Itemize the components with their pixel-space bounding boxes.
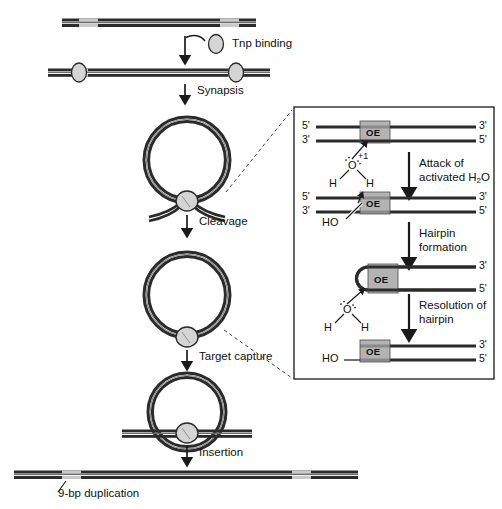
prime-label-p3-right-bottom: 5': [479, 282, 487, 295]
dna-top-linear: [62, 19, 256, 28]
tnp-oval-cleaved: [176, 327, 198, 347]
tnp-oval-right: [229, 63, 244, 82]
water-hydrogen-right-p3: H: [361, 321, 369, 334]
water-oxygen-p3: O: [343, 303, 352, 316]
tnp-oval-synapse: [176, 191, 198, 211]
inset-arrow-label-resolution-line2: hairpin: [419, 313, 454, 326]
dna-final-product: [14, 471, 358, 480]
inset-arrow-label-hairpin-line2: formation: [419, 241, 467, 254]
water-hydrogen-left-p3: H: [324, 321, 332, 334]
oe-label-p2: OE: [366, 197, 380, 210]
attack-tail: O: [481, 171, 490, 183]
inset-arrow-label-hairpin-line1: Hairpin: [419, 227, 455, 240]
prime-label-p2-left-bottom: 3': [302, 204, 310, 217]
tnp-legend-oval: [209, 35, 224, 54]
prime-label-p4-right-top: 3': [479, 338, 487, 351]
connector-top: [226, 110, 292, 192]
attack-text: activated H: [419, 171, 477, 183]
inset-arrow-label-attack-line1: Attack of: [419, 157, 464, 170]
prime-label-p4-right-bottom: 5': [479, 352, 487, 365]
step-label-cleavage: Cleavage: [199, 215, 248, 228]
step-label-synapsis: Synapsis: [197, 84, 244, 97]
prime-label-p1-left-top: 5': [302, 119, 310, 132]
oe-label-p4: OE: [366, 345, 380, 358]
step-label-tnp-binding: Tnp binding: [232, 37, 292, 50]
hydroxyl-label-p2: HO: [322, 216, 339, 229]
water-oxygen-p1: O: [348, 159, 357, 172]
dna-loop-cleaved: [144, 252, 230, 338]
inset-arrow-label-resolution-line1: Resolution of: [419, 299, 486, 312]
step-label-target-capture: Target capture: [199, 350, 273, 363]
prime-label-p3-right-top: 3': [479, 259, 487, 272]
charge-label-p1: +1: [358, 150, 368, 163]
tnp-oval-left: [72, 63, 87, 82]
arrow-tnp-binding: [185, 35, 205, 60]
annotation-9bp-duplication: 9-bp duplication: [58, 487, 139, 500]
oe-label-p1: OE: [366, 126, 380, 139]
prime-label-p1-right-bottom: 5': [479, 133, 487, 146]
tnp-oval-target: [176, 423, 198, 443]
step-label-insertion: Insertion: [199, 446, 243, 459]
prime-label-p1-left-bottom: 3': [302, 133, 310, 146]
water-hydrogen-right-p1: H: [366, 177, 374, 190]
prime-label-p1-right-top: 3': [479, 119, 487, 132]
inset-arrow-label-attack-line2: activated H2O: [419, 171, 490, 187]
prime-label-p2-right-top: 3': [479, 190, 487, 203]
oe-label-p3: OE: [374, 273, 388, 286]
water-hydrogen-left-p1: H: [329, 177, 337, 190]
hydroxyl-label-p4: HO: [322, 352, 339, 365]
figure-vector: [0, 0, 502, 509]
prime-label-p2-left-top: 5': [302, 190, 310, 203]
figure-canvas: Tnp binding Synapsis Cleavage Target cap…: [0, 0, 502, 509]
prime-label-p2-right-bottom: 5': [479, 204, 487, 217]
